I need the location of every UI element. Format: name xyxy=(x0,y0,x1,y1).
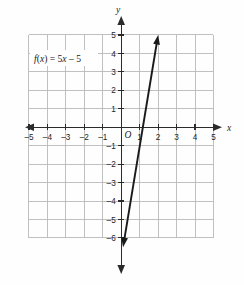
y-tick-label: 1 xyxy=(111,105,116,114)
x-tick-label: 2 xyxy=(156,133,161,142)
function-label: f(x) = 5x – 5 xyxy=(30,50,98,66)
figure-background xyxy=(0,0,244,285)
y-tick-label: –4 xyxy=(107,197,117,206)
y-axis-label: y xyxy=(115,5,121,15)
y-tick-label: –6 xyxy=(107,234,117,243)
function-label-text: f(x) = 5x – 5 xyxy=(34,53,81,65)
origin-label: O xyxy=(125,130,132,140)
y-tick-label: 5 xyxy=(111,31,116,40)
y-tick-label: 3 xyxy=(111,68,116,77)
x-axis-label: x xyxy=(226,123,232,133)
y-tick-label: –3 xyxy=(107,179,117,188)
function-label-equals: = 5 xyxy=(47,53,62,64)
y-tick-label: –1 xyxy=(107,142,117,151)
x-tick-label: 4 xyxy=(193,133,198,142)
x-tick-label: –2 xyxy=(80,133,90,142)
x-tick-label: –3 xyxy=(61,133,71,142)
coordinate-plane-figure: –5–4–3–2–11234554321–1–2–3–4–5–6 O x y f… xyxy=(0,0,244,285)
y-tick-label: –2 xyxy=(107,160,117,169)
y-tick-label: 2 xyxy=(111,86,116,95)
coordinate-plane-svg: –5–4–3–2–11234554321–1–2–3–4–5–6 O x y f… xyxy=(0,0,244,285)
y-tick-label: 4 xyxy=(111,50,116,59)
x-tick-label: –5 xyxy=(24,133,34,142)
x-tick-label: 5 xyxy=(211,133,216,142)
y-tick-label: –5 xyxy=(107,216,117,225)
function-label-tail: – 5 xyxy=(67,53,82,64)
x-tick-label: 3 xyxy=(174,133,179,142)
x-tick-label: –4 xyxy=(43,133,53,142)
